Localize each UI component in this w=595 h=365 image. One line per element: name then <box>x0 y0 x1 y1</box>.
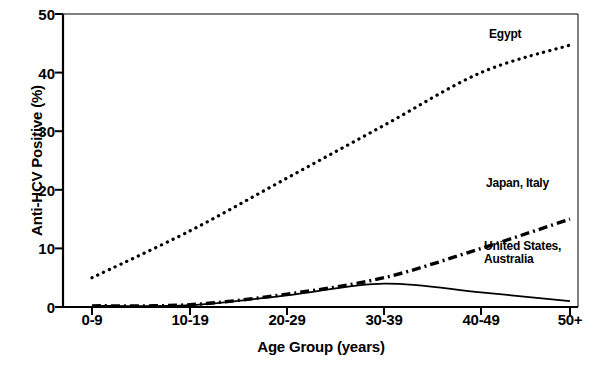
y-axis-ticks <box>55 14 63 307</box>
x-tick-label-20-29: 20-29 <box>242 311 332 328</box>
x-tick-label-40-49: 40-49 <box>436 311 526 328</box>
x-axis-title: Age Group (years) <box>63 338 579 355</box>
x-tick-label-10-19: 10-19 <box>145 311 235 328</box>
x-tick-label-0-9: 0-9 <box>47 311 137 328</box>
series-label-japan-italy: Japan, Italy <box>486 177 549 190</box>
chart-figure: Anti-HCV Positive (%) 50 40 30 20 10 0 0… <box>0 0 595 365</box>
y-tick-label: 30 <box>15 124 55 139</box>
y-tick-label: 20 <box>15 183 55 198</box>
series-path-united-states-australia <box>92 284 570 307</box>
x-tick-label-30-39: 30-39 <box>339 311 429 328</box>
y-tick-label: 10 <box>15 241 55 256</box>
series-label-egypt: Egypt <box>489 28 521 41</box>
x-tick-label-50plus: 50+ <box>525 311 595 328</box>
y-tick-label: 50 <box>15 7 55 22</box>
series-label-united-states-australia: United States, Australia <box>484 240 561 266</box>
y-tick-label: 40 <box>15 66 55 81</box>
